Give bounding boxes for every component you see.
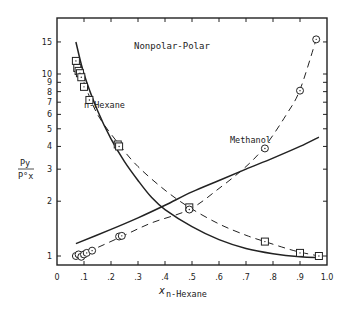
marker-dot [83, 86, 84, 87]
axes-frame [57, 18, 327, 265]
y-tick-label: 15 [42, 38, 52, 47]
x-tick-label: .4 [161, 273, 169, 282]
marker-dot [118, 146, 119, 147]
label-n-hexane: n-Hexane [84, 100, 125, 110]
x-tick-label: .3 [134, 273, 142, 282]
marker-dot [264, 148, 265, 149]
marker-dot [318, 255, 319, 256]
plot-border [57, 18, 327, 265]
y-label-numerator: Py [20, 158, 30, 168]
y-tick-label: 2 [47, 197, 52, 206]
marker-dot [189, 209, 190, 210]
marker-dot [75, 60, 76, 61]
series-curve [76, 137, 319, 243]
series-curve [76, 60, 319, 256]
series-curve [76, 42, 319, 258]
y-axis-label: Py P°x [18, 158, 34, 181]
y-tick-label: 5 [47, 125, 52, 134]
y-tick-label: 8 [47, 88, 52, 97]
marker-dot [121, 235, 122, 236]
x-tick-label: .6 [215, 273, 223, 282]
marker-dot [316, 39, 317, 40]
x-label-main: x [158, 285, 165, 296]
plot-area: 0.1.2.3.4.5.6.7.8.91.0 1234567891015 Non… [0, 0, 347, 313]
series-curve [76, 39, 316, 256]
label-methanol: Methanol [230, 135, 271, 145]
marker-dot [299, 90, 300, 91]
x-tick-label: 1.0 [321, 273, 334, 282]
y-label-denominator: P°x [18, 171, 33, 181]
series-markers [72, 36, 322, 260]
series-curves [76, 39, 319, 257]
x-tick-label: .2 [107, 273, 115, 282]
x-tick-label: .9 [296, 273, 304, 282]
x-label-sub: n-Hexane [166, 289, 207, 299]
marker-dot [86, 252, 87, 253]
marker-dot [264, 241, 265, 242]
y-tick-label: 7 [47, 98, 52, 107]
x-axis-label: x n-Hexane [158, 285, 207, 299]
chart-figure: 0.1.2.3.4.5.6.7.8.91.0 1234567891015 Non… [0, 0, 347, 313]
y-tick-label: 6 [47, 110, 52, 119]
y-tick-label: 4 [47, 142, 52, 151]
y-tick-label: 10 [42, 70, 52, 79]
x-tick-label: .5 [188, 273, 196, 282]
marker-dot [81, 77, 82, 78]
marker-dot [299, 252, 300, 253]
y-tick-label: 1 [47, 252, 52, 261]
y-axis: 1234567891015 [42, 38, 327, 261]
y-tick-label: 9 [47, 78, 52, 87]
x-tick-label: .7 [242, 273, 250, 282]
x-tick-label: 0 [54, 273, 59, 282]
chart-title: Nonpolar-Polar [134, 41, 210, 51]
x-tick-label: .8 [269, 273, 277, 282]
y-tick-label: 3 [47, 165, 52, 174]
x-tick-label: .1 [80, 273, 88, 282]
marker-dot [91, 250, 92, 251]
